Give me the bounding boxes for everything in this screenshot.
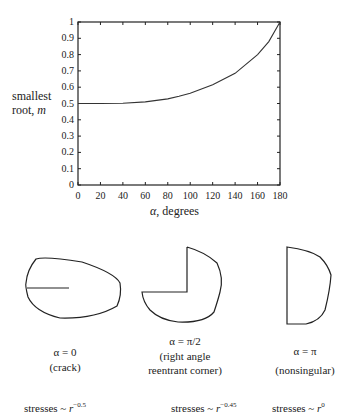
x-tick-label: 100: [178, 189, 202, 202]
x-tick-label: 60: [133, 189, 157, 202]
x-tick-label: 80: [156, 189, 180, 202]
x-tick-label: 180: [268, 189, 292, 202]
x-tick-label: 40: [111, 189, 135, 202]
x-axis-label-text: , degrees: [156, 204, 199, 218]
x-tick-label: 0: [66, 189, 90, 202]
y-axis-label-line1: smallest: [12, 90, 51, 103]
y-tick-label: 0.7: [52, 64, 74, 77]
y-tick-label: 0.9: [52, 31, 74, 44]
y-tick-label: 0.6: [52, 80, 74, 93]
stress-exp: 0: [321, 401, 325, 409]
root-curve: [78, 22, 280, 104]
nonsingular-angle-label: α = π: [265, 345, 345, 358]
y-tick-label: 1: [52, 15, 74, 28]
crack-diagram: [26, 258, 121, 318]
nonsingular-stress: stresses ~ r0: [272, 399, 325, 415]
stress-text: stresses ~: [171, 402, 216, 414]
y-axis-label-text: root,: [12, 103, 37, 117]
right-angle-desc-1: (right angle: [135, 350, 235, 363]
y-tick-label: 0.4: [52, 113, 74, 126]
crack-stress: stresses ~ r−0.5: [24, 399, 86, 415]
stress-text: stresses ~: [24, 402, 69, 414]
stress-text: stresses ~: [272, 402, 317, 414]
nonsingular-desc: (nonsingular): [265, 364, 345, 377]
stress-exp: −0.45: [220, 401, 236, 409]
y-axis-label-var: m: [37, 103, 46, 117]
x-tick-label: 140: [223, 189, 247, 202]
x-tick-label: 120: [201, 189, 225, 202]
stress-exp: −0.5: [73, 401, 86, 409]
y-tick-label: 0.5: [52, 97, 74, 110]
y-axis-label-line2: root, m: [12, 104, 46, 117]
y-tick-label: 0.3: [52, 129, 74, 142]
right-angle-stress: stresses ~ r−0.45: [171, 399, 237, 415]
crack-angle-label: α = 0: [30, 346, 100, 359]
nonsingular-diagram: [287, 247, 331, 324]
plot-area: [78, 22, 280, 185]
right-angle-angle-label: α = π/2: [135, 335, 235, 348]
right-angle-desc-2: reentrant corner): [135, 364, 235, 377]
x-tick-label: 20: [88, 189, 112, 202]
y-tick-label: 0.1: [52, 162, 74, 175]
x-tick-label: 160: [246, 189, 270, 202]
right-angle-diagram: [142, 247, 221, 322]
x-axis-label: α, degrees: [150, 205, 199, 218]
y-tick-label: 0.8: [52, 48, 74, 61]
y-tick-label: 0.2: [52, 145, 74, 158]
crack-desc: (crack): [30, 361, 100, 374]
